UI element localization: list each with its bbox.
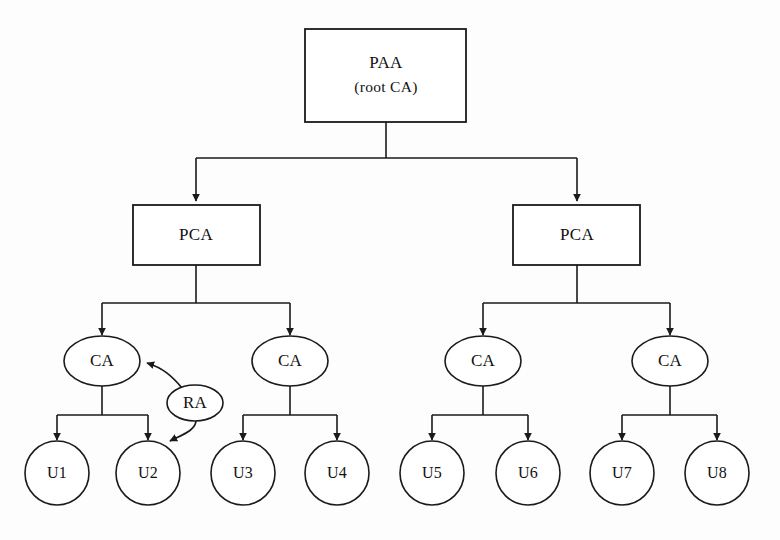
node-pca-right[interactable]: PCA [513,205,640,265]
node-ca-2[interactable]: CA [252,336,328,386]
pca-right-label: PCA [560,225,594,244]
node-u2[interactable]: U2 [116,441,180,505]
edge-ra-to-u2 [170,420,196,441]
node-u6[interactable]: U6 [496,441,560,505]
edge-group-pca-left-to-ca [102,265,290,335]
node-paa[interactable]: PAA (root CA) [305,29,466,122]
node-u5[interactable]: U5 [400,441,464,505]
diagram-canvas: PAA (root CA) PCA PCA CA CA CA [0,0,780,540]
edge-group-root-to-pca [196,122,577,201]
node-u7[interactable]: U7 [590,441,654,505]
edge-group-ca-2-to-users [243,385,337,440]
node-u4[interactable]: U4 [305,441,369,505]
node-ca-4[interactable]: CA [632,336,708,386]
u2-label: U2 [138,464,158,481]
paa-label-line1: PAA [369,53,403,72]
u3-label: U3 [233,464,253,481]
node-u3[interactable]: U3 [211,441,275,505]
u4-label: U4 [327,464,347,481]
pca-left-label: PCA [179,225,213,244]
node-ca-1[interactable]: CA [64,336,140,386]
ca-2-label: CA [278,351,303,370]
node-u8[interactable]: U8 [685,441,749,505]
u7-label: U7 [612,464,632,481]
paa-label-line2: (root CA) [354,78,417,96]
ra-label: RA [183,393,208,412]
edge-group-ca-3-to-users [432,385,528,440]
edge-group-ca-4-to-users [622,385,717,440]
paa-box[interactable] [305,29,466,122]
node-u1[interactable]: U1 [25,441,89,505]
ca-1-label: CA [90,351,115,370]
node-pca-left[interactable]: PCA [133,205,260,265]
ca-3-label: CA [471,351,496,370]
ca-4-label: CA [658,351,683,370]
edge-ra-to-ca-1 [147,363,182,388]
edge-group-pca-right-to-ca [483,265,670,335]
node-ra[interactable]: RA [167,385,223,421]
u8-label: U8 [707,464,727,481]
pki-hierarchy-diagram: PAA (root CA) PCA PCA CA CA CA [0,0,780,540]
edge-group-ca-1-to-users [57,385,148,440]
u5-label: U5 [422,464,442,481]
u1-label: U1 [47,464,67,481]
node-ca-3[interactable]: CA [445,336,521,386]
u6-label: U6 [518,464,538,481]
